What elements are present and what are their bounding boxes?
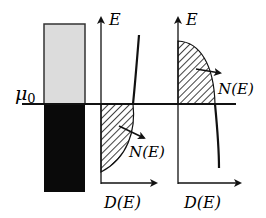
n-label-right: N(E) <box>217 80 254 98</box>
energy-block <box>44 24 85 192</box>
e-label-right: E <box>185 10 198 29</box>
upper-empty-block <box>44 24 85 104</box>
band-diagram: μ0 E E N(E) N(E) D(E) D(E) <box>0 0 266 218</box>
e-label-middle: E <box>108 10 121 29</box>
lower-filled-block <box>44 104 85 192</box>
dos-panel-right <box>178 18 240 184</box>
d-label-right: D(E) <box>183 193 221 212</box>
d-label-middle: D(E) <box>103 193 141 212</box>
mu0-label: μ0 <box>15 82 36 106</box>
dos-curve-lower <box>215 104 219 168</box>
dos-curve-upper <box>133 35 139 104</box>
occupied-region-hatched <box>101 104 134 172</box>
occupied-region-hatched-right <box>178 41 215 104</box>
n-label-middle: N(E) <box>128 143 165 161</box>
